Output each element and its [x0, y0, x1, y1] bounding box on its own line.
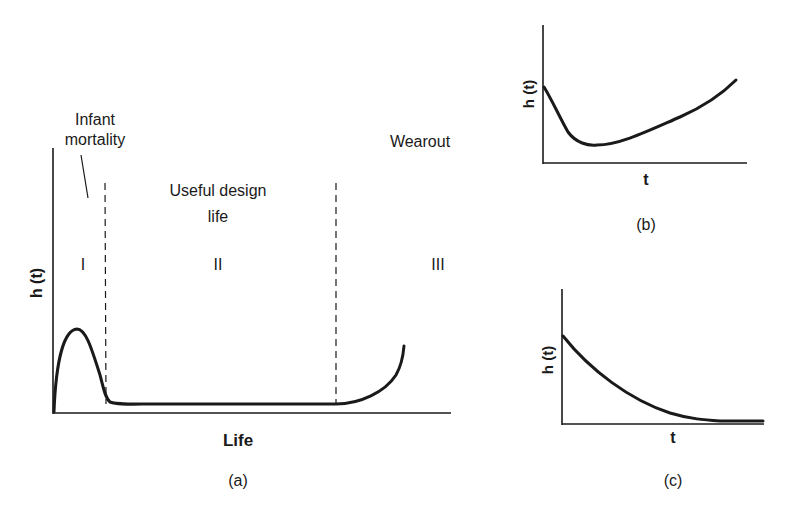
panel-c: h (t) t (c)	[539, 289, 764, 489]
panel-c-y-label: h (t)	[539, 346, 556, 374]
panel-a-bathtub-curve	[54, 329, 404, 412]
panel-a-infant-leader-line	[81, 155, 88, 198]
panel-c-caption: (c)	[664, 472, 683, 489]
wearout-label: Wearout	[390, 133, 451, 150]
panel-a-y-label: h (t)	[28, 268, 45, 298]
region-label-II: II	[214, 256, 223, 273]
panel-a: Infant mortality Useful design life Wear…	[28, 111, 451, 489]
region-label-III: III	[431, 256, 444, 273]
figure-canvas: Infant mortality Useful design life Wear…	[0, 0, 785, 511]
infant-label-line2: mortality	[65, 131, 125, 148]
panel-b-x-label: t	[643, 171, 649, 188]
useful-life-label-line2: life	[208, 208, 229, 225]
infant-label-line1: Infant	[75, 111, 116, 128]
panel-b-curve	[544, 80, 736, 145]
panel-a-caption: (a)	[228, 472, 248, 489]
region-label-I: I	[81, 256, 85, 273]
panel-b: h (t) t (b)	[520, 25, 747, 233]
panel-c-x-label: t	[670, 429, 676, 446]
panel-b-caption: (b)	[636, 216, 656, 233]
useful-life-label-line1: Useful design	[170, 182, 267, 199]
panel-a-boundary-1	[105, 183, 106, 404]
panel-b-y-label: h (t)	[520, 80, 537, 108]
panel-a-x-label: Life	[223, 431, 253, 450]
panel-c-curve	[563, 336, 763, 421]
